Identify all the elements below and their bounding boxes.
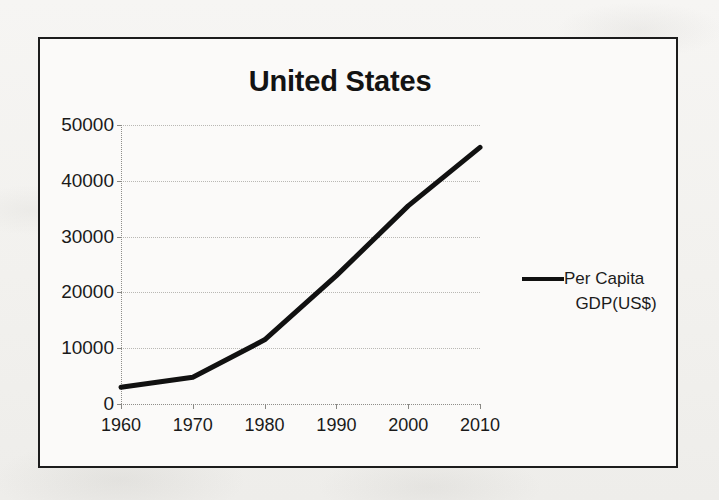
x-axis-label-1980: 1980 (245, 415, 285, 436)
y-axis-label-10000: 10000 (61, 337, 114, 359)
x-axis-label-1970: 1970 (173, 415, 213, 436)
legend-line-swatch (522, 277, 564, 281)
legend-label-line-1: Per Capita (564, 266, 668, 291)
series-line-chart (121, 125, 480, 404)
legend-label: Per Capita GDP(US$) (564, 266, 668, 316)
chart-frame: United States 01000020000300004000050000… (38, 37, 678, 468)
x-axis-tick-labels: 196019701980199020002010 (121, 415, 480, 443)
gridline-y-0 (121, 404, 480, 405)
y-axis-tick-labels: 01000020000300004000050000 (40, 125, 114, 404)
plot-area (121, 125, 480, 404)
x-tick-1980 (265, 404, 266, 409)
x-tick-1970 (193, 404, 194, 409)
legend-label-line-2: GDP(US$) (564, 291, 668, 316)
y-axis-label-40000: 40000 (61, 170, 114, 192)
y-axis-label-20000: 20000 (61, 281, 114, 303)
x-tick-2010 (480, 404, 481, 409)
x-tick-1960 (121, 404, 122, 409)
x-axis-label-1960: 1960 (101, 415, 141, 436)
y-axis-label-30000: 30000 (61, 226, 114, 248)
series-line-per-capita-gdp (121, 147, 480, 387)
y-axis-label-0: 0 (103, 393, 114, 415)
x-tick-2000 (408, 404, 409, 409)
chart-legend: Per Capita GDP(US$) (518, 261, 668, 331)
x-axis-label-2000: 2000 (388, 415, 428, 436)
chart-title: United States (40, 65, 640, 98)
x-axis-label-2010: 2010 (460, 415, 500, 436)
y-axis-label-50000: 50000 (61, 114, 114, 136)
x-axis-label-1990: 1990 (316, 415, 356, 436)
x-tick-1990 (336, 404, 337, 409)
